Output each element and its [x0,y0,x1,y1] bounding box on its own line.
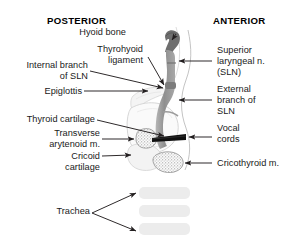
label-trachea: Trachea [0,206,90,217]
label-superior-laryngeal-nerve-line2: laryngeal n. [217,56,265,67]
leader-thyrohyoid-ligament [148,57,164,85]
label-superior-laryngeal-nerve-line3: (SLN) [217,67,241,78]
leader-cricoid-cartilage [102,155,131,156]
label-thyroid-cartilage: Thyroid cartilage [0,114,95,125]
label-cricoid-cartilage-line1: Cricoid [0,151,100,162]
neck-contour [175,27,191,170]
label-thyrohyoid-ligament-line1: Thyrohyoid [0,44,143,55]
orientation-posterior: POSTERIOR [47,15,106,26]
leader-internal-branch [90,71,163,88]
label-epiglottis: Epiglottis [0,86,82,97]
label-hyoid-bone: Hyoid bone [0,27,126,38]
label-external-branch-line2: branch of [217,95,256,106]
trachea-rings-shape [139,187,190,235]
leader-trachea-bottom [92,213,136,231]
label-cricothyroid-muscle: Cricothyroid m. [217,158,279,169]
orientation-anterior: ANTERIOR [213,15,266,26]
label-cricoid-cartilage-line2: cartilage [0,162,100,173]
label-transverse-arytenoid-line2: arytenoid m. [0,139,100,150]
larynx-anatomy-figure: POSTERIOR ANTERIOR Hyoid bone Thyrohyoid… [0,0,293,242]
label-superior-laryngeal-nerve-line1: Superior [217,45,252,56]
label-external-branch-line3: SLN [217,106,235,117]
label-internal-branch-line2: of SLN [0,71,88,82]
cricothyroid-muscle-shape [153,152,183,173]
label-external-branch-line1: External [217,84,251,95]
leader-trachea-top [92,193,136,213]
hyoid-bone-shape [165,30,180,53]
label-vocal-cords-line2: cords [217,134,240,145]
thyrohyoid-ligament-shape [165,82,176,89]
label-internal-branch-line1: Internal branch [0,60,88,71]
label-transverse-arytenoid-line1: Transverse [0,128,100,139]
label-vocal-cords-line1: Vocal [217,123,240,134]
